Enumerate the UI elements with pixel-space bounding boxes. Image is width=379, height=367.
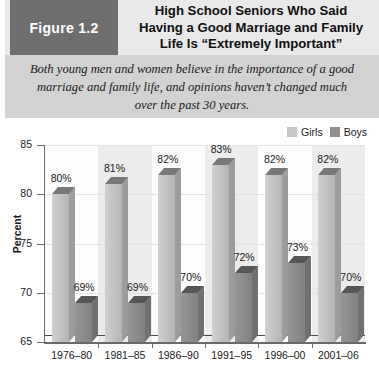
gridline bbox=[45, 194, 365, 195]
data-label-girls-1991–95: 83% bbox=[205, 143, 238, 155]
bar-side bbox=[92, 296, 98, 342]
bar-boys-1996–00 bbox=[288, 256, 305, 342]
bar-face bbox=[181, 293, 198, 342]
y-tick-label: 85 bbox=[2, 138, 32, 150]
y-tick-label: 80 bbox=[2, 187, 32, 199]
x-tick bbox=[98, 342, 99, 348]
bar-face bbox=[128, 303, 145, 342]
data-label-boys-1996–00: 73% bbox=[281, 241, 314, 253]
x-tick-label: 1976–80 bbox=[45, 349, 98, 361]
bar-girls-1996–00 bbox=[265, 168, 282, 342]
y-tick bbox=[37, 145, 44, 146]
figure-header: Figure 1.2 High School Seniors Who Said … bbox=[5, 0, 379, 55]
bar-face bbox=[265, 175, 282, 342]
gridline bbox=[45, 244, 365, 245]
bar-girls-1976–80 bbox=[52, 187, 69, 342]
data-label-girls-1976–80: 80% bbox=[45, 172, 78, 184]
data-label-boys-2001–06: 70% bbox=[334, 271, 367, 283]
bar-face bbox=[158, 175, 175, 342]
x-tick bbox=[205, 342, 206, 348]
figure-caption: Both young men and women believe in the … bbox=[5, 55, 379, 118]
chart-area: Percent 80%81%82%83%82%82%69%69%70%72%73… bbox=[0, 140, 379, 367]
y-tick bbox=[37, 244, 44, 245]
legend-item-boys: Boys bbox=[330, 126, 367, 138]
bar-side bbox=[358, 286, 364, 342]
bar-face bbox=[318, 175, 335, 342]
chart-title: High School Seniors Who Said Having a Go… bbox=[120, 1, 379, 55]
bar-boys-1981–85 bbox=[128, 296, 145, 342]
bar-boys-1976–80 bbox=[75, 296, 92, 342]
x-tick-label: 1986–90 bbox=[152, 349, 205, 361]
data-label-girls-2001–06: 82% bbox=[311, 153, 344, 165]
y-tick-label: 65 bbox=[2, 335, 32, 347]
legend-item-girls: Girls bbox=[287, 126, 323, 138]
x-tick-label: 1991–95 bbox=[205, 349, 258, 361]
x-tick-label: 2001–06 bbox=[312, 349, 365, 361]
x-tick bbox=[152, 342, 153, 348]
data-label-girls-1996–00: 82% bbox=[258, 153, 291, 165]
data-label-girls-1981–85: 81% bbox=[98, 162, 131, 174]
bar-face bbox=[212, 165, 229, 342]
bar-side bbox=[252, 266, 258, 342]
bar-girls-1991–95 bbox=[212, 158, 229, 342]
x-tick bbox=[258, 342, 259, 348]
chart-title-line-3: Life Is “Extremely Important” bbox=[160, 36, 342, 53]
x-tick bbox=[312, 342, 313, 348]
legend-label-girls: Girls bbox=[301, 126, 323, 138]
caption-line-1: Both young men and women believe in the … bbox=[30, 60, 354, 78]
caption-line-2: marriage and family life, and opinions h… bbox=[37, 78, 347, 96]
bar-side bbox=[145, 296, 151, 342]
bar-boys-1986–90 bbox=[181, 286, 198, 342]
bar-face bbox=[288, 263, 305, 342]
y-tick-label: 75 bbox=[2, 237, 32, 249]
bar-face bbox=[52, 194, 69, 342]
y-tick bbox=[37, 342, 44, 343]
figure-number-label: Figure 1.2 bbox=[29, 20, 98, 36]
y-tick bbox=[37, 293, 44, 294]
chart-title-line-1: High School Seniors Who Said bbox=[155, 3, 348, 20]
x-tick-label: 1981–85 bbox=[98, 349, 151, 361]
x-tick-label: 1996–00 bbox=[258, 349, 311, 361]
y-tick-label: 70 bbox=[2, 286, 32, 298]
legend-swatch-boys bbox=[330, 127, 340, 137]
y-axis-title: Percent bbox=[11, 204, 23, 264]
bar-girls-1986–90 bbox=[158, 168, 175, 342]
data-label-girls-1986–90: 82% bbox=[151, 153, 184, 165]
bar-side bbox=[198, 286, 204, 342]
data-label-boys-1976–80: 69% bbox=[68, 281, 101, 293]
chart-title-line-2: Having a Good Marriage and Family bbox=[139, 20, 363, 37]
data-label-boys-1981–85: 69% bbox=[121, 281, 154, 293]
bar-boys-2001–06 bbox=[341, 286, 358, 342]
bar-girls-2001–06 bbox=[318, 168, 335, 342]
bar-girls-1981–85 bbox=[105, 177, 122, 342]
chart-legend: Girls Boys bbox=[287, 125, 367, 139]
bar-face bbox=[75, 303, 92, 342]
bar-face bbox=[105, 184, 122, 342]
y-tick bbox=[37, 194, 44, 195]
bar-side bbox=[305, 256, 311, 342]
gridline bbox=[45, 293, 365, 294]
data-label-boys-1991–95: 72% bbox=[228, 251, 261, 263]
legend-swatch-girls bbox=[287, 127, 297, 137]
bar-face bbox=[341, 293, 358, 342]
data-label-boys-1986–90: 70% bbox=[174, 271, 207, 283]
caption-line-3: over the past 30 years. bbox=[135, 96, 249, 114]
bar-boys-1991–95 bbox=[235, 266, 252, 342]
bar-face bbox=[235, 273, 252, 342]
plot-region: 80%81%82%83%82%82%69%69%70%72%73%70% bbox=[45, 145, 365, 342]
figure-number-box: Figure 1.2 bbox=[10, 0, 118, 55]
legend-label-boys: Boys bbox=[344, 126, 367, 138]
